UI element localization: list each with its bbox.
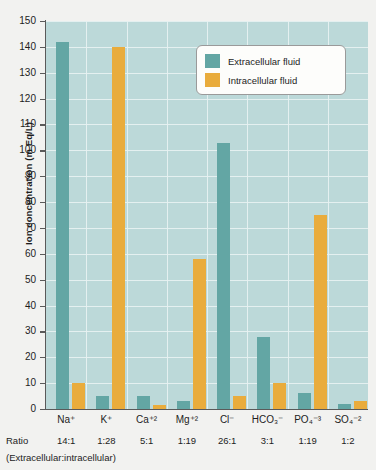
x-axis-label-cl-: Cl⁻ [207,414,247,425]
legend-label-extracellular: Extracellular fluid [228,56,300,67]
gridline-vertical [127,21,128,409]
y-axis-tick-label: 150 [8,15,36,26]
gridline-vertical [167,21,168,409]
y-axis-tick [40,73,46,74]
bar-hco3--intracellular [273,383,286,409]
y-axis-tick-label: 120 [8,93,36,104]
y-axis-tick-label: 110 [8,118,36,129]
y-axis-tick [40,176,46,177]
bar-mg+2-extracellular [177,401,190,409]
ratio-value-hco3-: 3:1 [247,435,287,446]
x-axis-label-mg+2: Mg⁺² [167,414,207,425]
gridline-vertical [86,21,87,409]
x-axis-label-so4-2: SO₄⁻² [328,414,368,425]
ratio-value-cl-: 26:1 [207,435,247,446]
x-axis-label-po4-3: PO₄⁻³ [288,414,328,425]
ratio-value-ca+2: 5:1 [127,435,167,446]
legend-item-intracellular: Intracellular fluid [205,71,337,89]
x-axis-label-ca+2: Ca⁺² [127,414,167,425]
bar-so4-2-intracellular [354,401,367,409]
y-axis-tick [40,357,46,358]
legend-label-intracellular: Intracellular fluid [228,75,297,86]
y-axis-tick [40,254,46,255]
y-axis-tick-label: 100 [8,144,36,155]
y-axis-tick-label: 80 [8,196,36,207]
legend-item-extracellular: Extracellular fluid [205,52,337,70]
y-axis-tick [40,383,46,384]
y-axis-tick [40,228,46,229]
y-axis-tick-label: 130 [8,67,36,78]
y-axis-tick [40,409,46,410]
y-axis-tick [40,47,46,48]
bar-cl--intracellular [233,396,246,409]
y-axis-tick-label: 70 [8,222,36,233]
x-axis-label-hco3-: HCO₃⁻ [247,414,287,425]
bar-hco3--extracellular [257,337,270,409]
y-axis-tick-label: 90 [8,170,36,181]
bar-na+-extracellular [56,42,69,409]
bar-ca+2-extracellular [137,396,150,409]
bar-k+-intracellular [112,47,125,409]
legend-swatch-intracellular [205,73,220,87]
ratio-value-mg+2: 1:19 [167,435,207,446]
y-axis-tick [40,99,46,100]
ratio-value-na+: 14:1 [46,435,86,446]
x-axis-label-na+: Na⁺ [46,414,86,425]
y-axis-tick-label: 40 [8,300,36,311]
ratio-value-so4-2: 1:2 [328,435,368,446]
bar-k+-extracellular [96,396,109,409]
y-axis-tick-label: 50 [8,274,36,285]
chart-figure: Ion concentration (m Eq/L) 0102030405060… [0,0,376,470]
bar-po4-3-intracellular [314,215,327,409]
y-axis-tick [40,150,46,151]
y-axis-tick [40,202,46,203]
bar-po4-3-extracellular [298,393,311,409]
y-axis-tick-label: 30 [8,325,36,336]
y-axis-tick-label: 10 [8,377,36,388]
y-axis-line [45,20,46,410]
y-axis-tick [40,306,46,307]
ratio-value-k+: 1:28 [86,435,126,446]
bar-cl--extracellular [217,143,230,409]
y-axis-tick [40,124,46,125]
y-axis-tick-label: 60 [8,248,36,259]
y-axis-tick-label: 140 [8,41,36,52]
y-axis-tick-label: 20 [8,351,36,362]
y-axis-tick [40,21,46,22]
x-axis-line [45,409,368,410]
ratio-caption: (Extracellular:intracellular) [6,452,116,463]
x-axis-label-k+: K⁺ [86,414,126,425]
bar-na+-intracellular [72,383,85,409]
chart-legend: Extracellular fluid Intracellular fluid [196,45,346,95]
bar-mg+2-intracellular [193,259,206,409]
ratio-value-po4-3: 1:19 [288,435,328,446]
y-axis-tick-label: 0 [8,403,36,414]
ratio-row-label: Ratio [6,435,28,446]
y-axis-tick [40,280,46,281]
y-axis-tick [40,331,46,332]
legend-swatch-extracellular [205,54,220,68]
